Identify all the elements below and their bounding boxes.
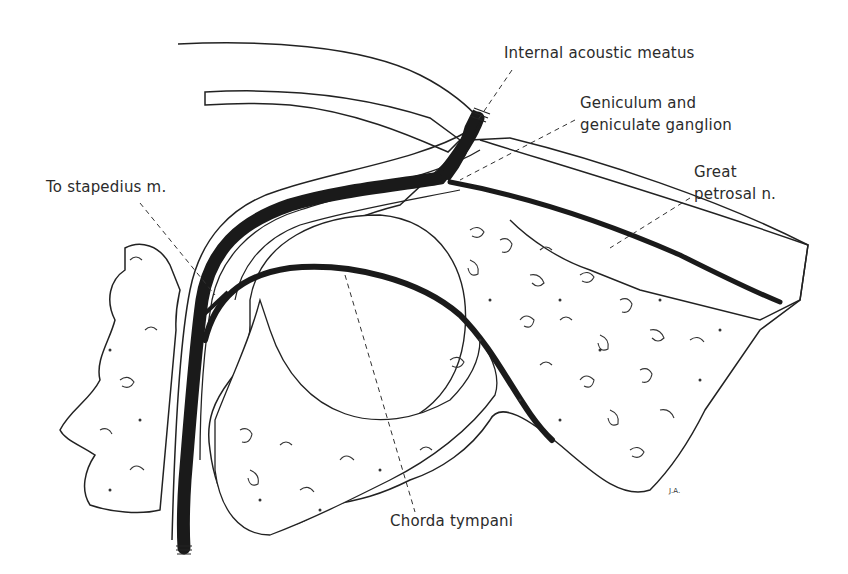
label-chorda-tympani: Chorda tympani — [390, 512, 513, 531]
label-geniculum-line2: geniculate ganglion — [580, 116, 732, 135]
label-internal-acoustic-meatus: Internal acoustic meatus — [504, 44, 695, 63]
leader-internal-acoustic — [478, 70, 512, 120]
label-great-petrosal-line2: petrosal n. — [694, 185, 776, 204]
label-great-petrosal-line1: Great — [694, 163, 737, 182]
mastoid-process — [60, 244, 180, 512]
upper-bone-band — [205, 91, 460, 152]
label-to-stapedius: To stapedius m. — [46, 178, 166, 197]
label-geniculum-line1: Geniculum and — [580, 94, 696, 113]
anatomy-illustration — [0, 0, 848, 574]
artist-signature: J.A. — [669, 487, 680, 495]
